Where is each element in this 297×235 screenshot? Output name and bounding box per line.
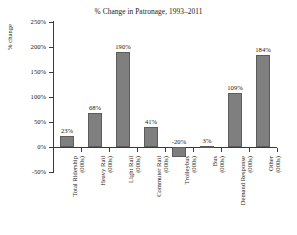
y-axis-tick-label: 150% [2, 68, 46, 75]
bar-value-label: 109% [215, 84, 255, 91]
category-name: Trolleybus [183, 156, 190, 184]
bar-value-label: 3% [187, 137, 227, 144]
bar [144, 127, 158, 148]
category-unit: (000s) [78, 156, 85, 232]
category-name: Bus [211, 156, 218, 166]
bar-value-label: 68% [75, 104, 115, 111]
y-axis-tick-label: -50% [2, 168, 46, 175]
category-unit: (000s) [246, 156, 253, 232]
bar-value-label: 23% [47, 127, 87, 134]
y-axis-tick [49, 172, 53, 173]
y-axis-tick-label: 100% [2, 93, 46, 100]
y-axis-tick [49, 72, 53, 73]
x-axis-tick [277, 148, 278, 152]
category-name: Light Rail [127, 156, 134, 183]
x-axis-category-label: Commuter Rail(000s) [155, 156, 170, 232]
x-axis-category-label: Demand Response(000s) [239, 156, 254, 232]
x-axis-tick [137, 148, 138, 152]
y-axis-tick-label: 200% [2, 43, 46, 50]
category-unit: (000s) [274, 156, 281, 232]
chart-container: % Change in Patronage, 1993–2011 % chang… [0, 0, 297, 235]
bar [256, 55, 270, 147]
category-name: Total Ridership [71, 156, 78, 197]
bar [60, 136, 74, 148]
y-axis-tick-label: 0% [2, 143, 46, 150]
x-axis-tick [109, 148, 110, 152]
bar [228, 93, 242, 148]
bar [200, 146, 214, 148]
category-unit: (000s) [106, 156, 113, 232]
x-axis-category-label: Light Rail(000s) [127, 156, 142, 232]
x-axis-category-label: Other(000s) [267, 156, 282, 232]
x-axis-tick [53, 148, 54, 152]
x-axis-category-label: Bus(000s) [211, 156, 226, 232]
y-axis-tick [49, 97, 53, 98]
y-axis-tick-label: 50% [2, 118, 46, 125]
bar-value-label: 184% [243, 46, 283, 53]
y-axis-tick-label: 250% [2, 18, 46, 25]
x-axis-tick [193, 148, 194, 152]
x-axis-tick [81, 148, 82, 152]
bar-value-label: 190% [103, 43, 143, 50]
x-axis-tick [221, 148, 222, 152]
y-axis-tick [49, 122, 53, 123]
category-name: Demand Response [239, 156, 246, 205]
x-axis-category-label: Heavy Rail(000s) [99, 156, 114, 232]
y-axis-title: % change [6, 6, 13, 68]
bar-value-label: 41% [131, 118, 171, 125]
y-axis-tick [49, 47, 53, 48]
category-name: Heavy Rail [99, 156, 106, 186]
category-unit: (000s) [134, 156, 141, 232]
category-name: Commuter Rail [155, 156, 162, 197]
chart-title: % Change in Patronage, 1993–2011 [0, 7, 297, 16]
category-unit: (000s) [190, 156, 197, 232]
category-unit: (000s) [218, 156, 225, 232]
x-axis-tick [249, 148, 250, 152]
bar [88, 113, 102, 147]
x-axis-category-label: Trolleybus(000s) [183, 156, 198, 232]
bar [116, 52, 130, 147]
category-name: Other [267, 156, 274, 171]
category-unit: (000s) [162, 156, 169, 232]
y-axis-tick [49, 22, 53, 23]
x-axis-tick [165, 148, 166, 152]
x-axis-category-label: Total Ridership(000s) [71, 156, 86, 232]
